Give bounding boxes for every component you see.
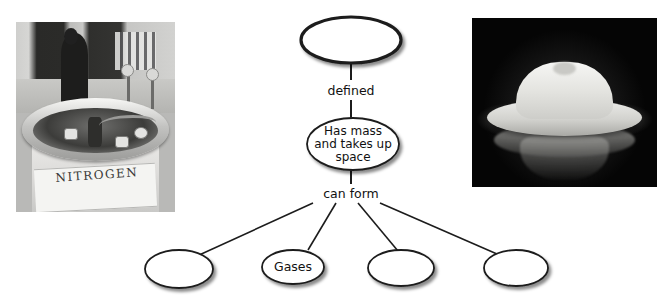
connector-canform-to-leaf2 — [308, 203, 336, 250]
connector-canform-to-leaf3 — [358, 203, 398, 251]
node-leaf1-ellipse[interactable] — [145, 250, 213, 288]
diagram-canvas: NITROGEN — [0, 0, 670, 299]
node-middle-ellipse[interactable] — [307, 118, 399, 170]
node-leaf2-ellipse[interactable] — [262, 250, 324, 284]
link-label-defined: defined — [317, 83, 385, 98]
node-top-ellipse[interactable] — [301, 17, 401, 63]
node-leaf4-ellipse[interactable] — [484, 250, 548, 286]
connector-canform-to-leaf4 — [380, 203, 497, 254]
link-label-can-form: can form — [317, 186, 385, 201]
concept-map — [0, 0, 670, 299]
node-leaf3-ellipse[interactable] — [368, 250, 434, 286]
connector-canform-to-leaf1 — [197, 203, 313, 256]
